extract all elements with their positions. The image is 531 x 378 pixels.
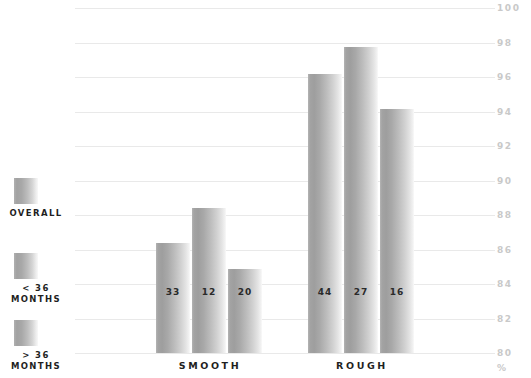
- y-tick-98: 98: [497, 38, 527, 48]
- plot-area: 33 12 20 44 27 16: [75, 8, 495, 353]
- gridline-92: [75, 146, 495, 147]
- gridline-94: [75, 112, 495, 113]
- bar-rough-over-36-months: 16: [380, 109, 414, 353]
- legend-swatch-over-36-months: [14, 320, 38, 346]
- y-tick-84: 84: [497, 279, 527, 289]
- group-label-rough: ROUGH: [302, 360, 422, 371]
- bar-count-smooth-over-36-months: 20: [228, 287, 262, 297]
- legend-swatch-under-36-months: [14, 253, 38, 279]
- group-label-smooth: SMOOTH: [150, 360, 270, 371]
- bar-count-smooth-under-36-months: 12: [192, 287, 226, 297]
- y-tick-96: 96: [497, 72, 527, 82]
- gridline-96: [75, 77, 495, 78]
- y-tick-80: 80: [497, 348, 527, 358]
- y-tick-94: 94: [497, 107, 527, 117]
- y-axis-unit-label: %: [497, 363, 527, 373]
- bar-chart: OVERALL < 36 MONTHS > 36 MONTHS 33 12: [0, 0, 531, 378]
- legend-label-overall: OVERALL: [0, 208, 72, 219]
- gridline-82: [75, 319, 495, 320]
- gridline-88: [75, 215, 495, 216]
- gridline-84: [75, 284, 495, 285]
- y-tick-86: 86: [497, 245, 527, 255]
- y-tick-82: 82: [497, 314, 527, 324]
- legend-label-over-36-months: > 36 MONTHS: [0, 350, 72, 372]
- bar-count-rough-under-36-months: 27: [344, 287, 378, 297]
- bar-count-smooth-overall: 33: [156, 287, 190, 297]
- gridline-80: [75, 353, 495, 354]
- legend-item-over-36-months: > 36 MONTHS: [0, 320, 72, 372]
- y-tick-100: 100: [497, 3, 527, 13]
- bar-rough-overall: 44: [308, 74, 342, 353]
- chart-legend: OVERALL < 36 MONTHS > 36 MONTHS: [0, 0, 72, 378]
- y-tick-88: 88: [497, 210, 527, 220]
- legend-item-overall: OVERALL: [0, 178, 72, 222]
- bar-smooth-over-36-months: 20: [228, 269, 262, 353]
- legend-item-under-36-months: < 36 MONTHS: [0, 253, 72, 305]
- y-tick-92: 92: [497, 141, 527, 151]
- legend-swatch-overall: [14, 178, 38, 204]
- bar-smooth-under-36-months: 12: [192, 208, 226, 353]
- gridline-90: [75, 181, 495, 182]
- gridline-86: [75, 250, 495, 251]
- legend-label-under-36-months: < 36 MONTHS: [0, 283, 72, 305]
- bar-count-rough-over-36-months: 16: [380, 287, 414, 297]
- gridline-100: [75, 8, 495, 9]
- bar-rough-under-36-months: 27: [344, 47, 378, 353]
- bar-smooth-overall: 33: [156, 243, 190, 353]
- bar-count-rough-overall: 44: [308, 287, 342, 297]
- y-tick-90: 90: [497, 176, 527, 186]
- gridline-98: [75, 43, 495, 44]
- y-axis: 100 98 96 94 92 90 88 86 84 82 80 %: [497, 0, 531, 378]
